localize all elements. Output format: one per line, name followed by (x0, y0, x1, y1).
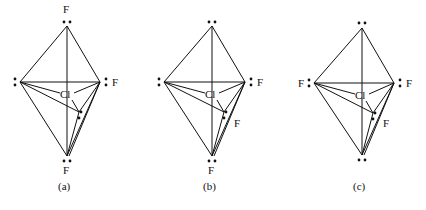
lone-pair-top (208, 21, 217, 24)
bottom-atom-label: F (63, 164, 69, 176)
lone-pair-right (399, 79, 402, 88)
lone-pair-left (158, 78, 161, 87)
panel-caption: (c) (353, 180, 366, 193)
lone-pair-bottom (358, 159, 367, 162)
clf3-structures-figure: Cl F F F (a) Cl F (0, 0, 426, 210)
right-atom-label: F (112, 76, 118, 88)
panel-c: Cl F F F (c) (298, 22, 412, 193)
lone-pair-right (105, 78, 108, 87)
lone-pair-right (250, 78, 253, 87)
lone-pair-left (308, 79, 311, 88)
lone-pair-bottom (63, 160, 72, 163)
top-atom-label: F (63, 3, 69, 15)
lone-pair-bottom (208, 160, 217, 163)
central-atom-label: Cl (60, 88, 70, 100)
panel-caption: (a) (58, 180, 71, 193)
front-atom-label: F (234, 117, 240, 129)
panel-a: Cl F F F (a) (14, 3, 119, 193)
bottom-atom-label: F (208, 164, 214, 176)
panel-b: Cl F F F (b) (158, 21, 264, 193)
trigonal-bipyramid-edges (314, 28, 394, 155)
left-atom-label: F (298, 77, 304, 89)
lone-pair-top (358, 22, 367, 25)
lone-pair-left (14, 78, 17, 87)
central-atom-label: Cl (355, 89, 365, 101)
right-atom-label: F (406, 77, 412, 89)
front-atom-label: F (383, 117, 389, 129)
right-atom-label: F (257, 76, 263, 88)
lone-pair-top (63, 21, 72, 24)
panel-caption: (b) (203, 180, 216, 193)
central-atom-label: Cl (205, 88, 215, 100)
